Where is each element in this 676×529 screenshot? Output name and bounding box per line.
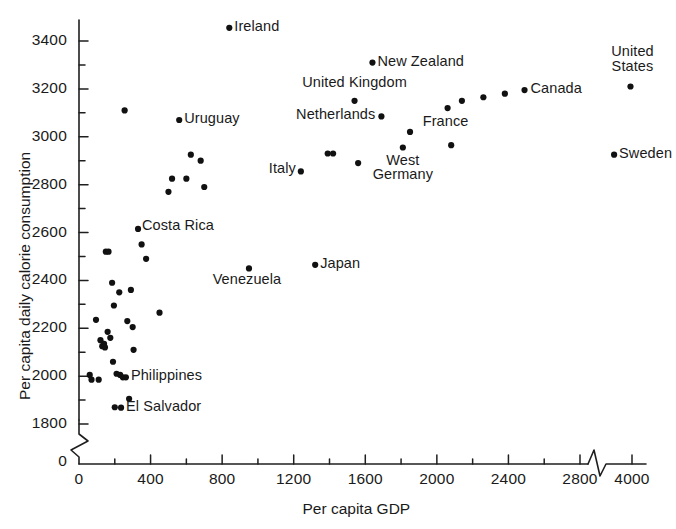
data-point <box>93 317 99 323</box>
point-label-el-salvador: El Salvador <box>126 399 201 414</box>
y-axis-break-mark <box>71 420 88 464</box>
point-label-philippines: Philippines <box>131 368 202 383</box>
y-tick-label-3000: 3000 <box>0 127 67 145</box>
data-point <box>459 98 465 104</box>
data-point <box>201 184 207 190</box>
data-point <box>156 310 162 316</box>
x-tick-label-800: 800 <box>182 470 262 488</box>
data-point <box>105 329 111 335</box>
point-label-japan: Japan <box>320 256 360 271</box>
data-point <box>128 287 134 293</box>
data-point <box>325 150 331 156</box>
data-point <box>407 129 413 135</box>
point-label-new-zealand: New Zealand <box>377 54 464 69</box>
data-point <box>165 189 171 195</box>
point-label-united-states: United States <box>562 44 676 74</box>
data-point <box>105 249 111 255</box>
point-label-venezuela: Venezuela <box>177 272 317 287</box>
data-point <box>143 256 149 262</box>
data-point-costa-rica <box>135 226 141 232</box>
point-label-west-germany: West Germany <box>333 153 473 183</box>
data-point <box>124 318 130 324</box>
data-point-new-zealand <box>369 59 375 65</box>
y-tick-label-zero: 0 <box>0 452 67 470</box>
x-axis-ticks <box>115 455 632 464</box>
data-point-west-germany <box>400 144 406 150</box>
data-point <box>130 324 136 330</box>
data-point-italy <box>298 168 304 174</box>
x-tick-label-0: 0 <box>39 470 119 488</box>
data-point <box>88 377 94 383</box>
data-point <box>130 347 136 353</box>
data-point <box>502 91 508 97</box>
data-point <box>112 404 118 410</box>
data-point-japan <box>312 262 318 268</box>
x-tick-label-1600: 1600 <box>325 470 405 488</box>
data-point <box>107 335 113 341</box>
data-point-canada <box>521 87 527 93</box>
data-point <box>111 302 117 308</box>
x-tick-label-2000: 2000 <box>397 470 477 488</box>
x-tick-label-400: 400 <box>111 470 191 488</box>
point-label-france: France <box>376 114 516 129</box>
data-point <box>139 241 145 247</box>
y-tick-label-1800: 1800 <box>0 414 67 432</box>
y-tick-label-3200: 3200 <box>0 79 67 97</box>
data-point-el-salvador <box>118 405 124 411</box>
x-axis-title: Per capita GDP <box>303 500 411 518</box>
data-point <box>116 289 122 295</box>
data-point <box>96 377 102 383</box>
data-point-sweden <box>611 152 617 158</box>
x-tick-label-1200: 1200 <box>254 470 334 488</box>
point-label-italy: Italy <box>0 161 296 176</box>
data-point-united-kingdom <box>351 98 357 104</box>
point-label-ireland: Ireland <box>234 19 279 34</box>
y-axis-title: Per capita daily calorie consumption <box>16 152 34 400</box>
point-label-canada: Canada <box>531 81 582 96</box>
data-point-france <box>444 105 450 111</box>
x-tick-label-2400: 2400 <box>468 470 548 488</box>
data-point <box>188 152 194 158</box>
x-tick-label-4000: 4000 <box>592 470 672 488</box>
y-tick-label-3400: 3400 <box>0 31 67 49</box>
data-point <box>448 142 454 148</box>
point-label-sweden: Sweden <box>619 146 672 161</box>
data-point <box>183 176 189 182</box>
data-point-ireland <box>226 25 232 31</box>
data-point <box>110 359 116 365</box>
data-point <box>102 344 108 350</box>
data-point <box>480 94 486 100</box>
data-point <box>109 280 115 286</box>
point-label-uruguay: Uruguay <box>184 111 240 126</box>
data-point-philippines <box>123 374 129 380</box>
data-point <box>169 176 175 182</box>
data-point-united-states <box>627 83 633 89</box>
y-axis-ticks <box>79 41 88 424</box>
point-label-costa-rica: Costa Rica <box>142 218 214 233</box>
point-label-united-kingdom: United Kingdom <box>285 75 425 90</box>
